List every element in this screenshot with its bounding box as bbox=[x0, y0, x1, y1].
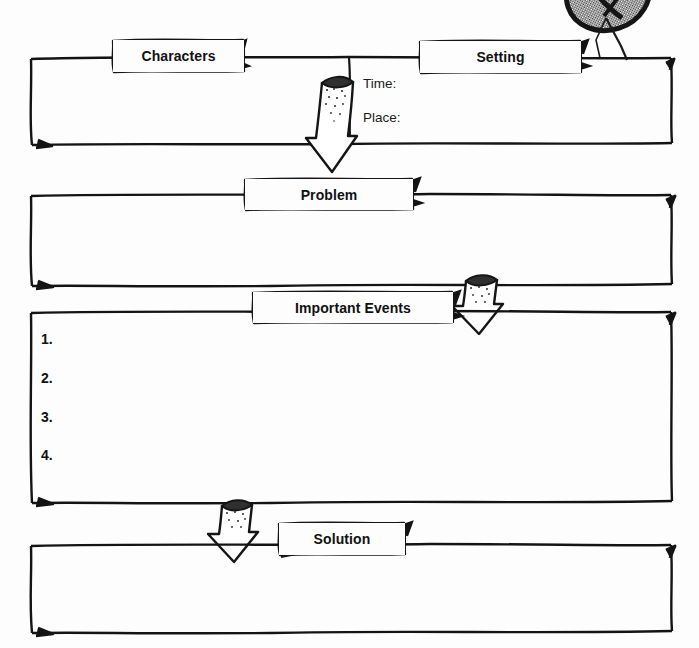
important-event-write-area-2[interactable] bbox=[66, 367, 664, 391]
problem-write-area[interactable] bbox=[36, 214, 668, 282]
characters-banner: Characters bbox=[113, 40, 244, 72]
important-event-number-3: 3. bbox=[41, 409, 53, 425]
characters-write-area[interactable] bbox=[34, 75, 346, 141]
setting-banner: Setting bbox=[420, 41, 581, 73]
solution-banner: Solution bbox=[279, 523, 405, 555]
setting-time-write-area[interactable] bbox=[412, 74, 668, 96]
important-events-label: Important Events bbox=[295, 300, 411, 316]
story-map-worksheet: Characters Setting Time: Place: Problem … bbox=[0, 0, 699, 648]
important-event-write-area-1[interactable] bbox=[66, 328, 664, 352]
setting-place-write-area[interactable] bbox=[415, 108, 668, 130]
important-events-banner: Important Events bbox=[253, 292, 453, 323]
setting-time-label: Time: bbox=[363, 76, 396, 91]
characters-label: Characters bbox=[141, 48, 215, 64]
solution-label: Solution bbox=[314, 531, 371, 547]
problem-banner: Problem bbox=[245, 179, 413, 210]
solution-write-area[interactable] bbox=[36, 558, 668, 628]
important-event-number-4: 4. bbox=[41, 447, 53, 463]
important-event-write-area-4[interactable] bbox=[66, 444, 664, 468]
important-event-write-area-3[interactable] bbox=[66, 406, 664, 430]
arrow-important-events-to-solution bbox=[208, 500, 258, 562]
setting-place-label: Place: bbox=[363, 110, 401, 125]
arrow-problem-to-important-events bbox=[452, 275, 503, 334]
important-event-number-1: 1. bbox=[41, 331, 53, 347]
setting-label: Setting bbox=[476, 49, 524, 65]
problem-label: Problem bbox=[301, 187, 358, 203]
important-event-number-2: 2. bbox=[41, 370, 53, 386]
